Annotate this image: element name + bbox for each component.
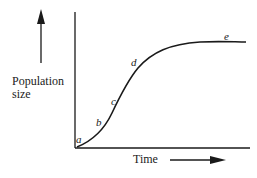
- x-axis-label: Time: [133, 153, 158, 166]
- y-axis-label-line2: size: [12, 88, 64, 101]
- point-label-c: c: [111, 95, 116, 107]
- y-direction-arrow-icon: [37, 9, 45, 63]
- growth-curve: [77, 42, 246, 147]
- point-label-b: b: [96, 116, 102, 128]
- point-label-e: e: [224, 30, 229, 42]
- x-direction-arrow-icon: [170, 156, 226, 164]
- point-label-a: a: [76, 133, 82, 145]
- point-label-d: d: [131, 56, 137, 68]
- y-axis-label: Population size: [12, 75, 64, 101]
